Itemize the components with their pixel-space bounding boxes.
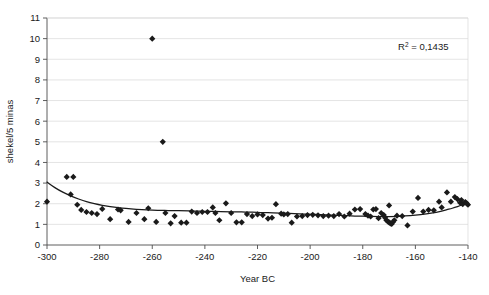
x-tick-label--160: -160 xyxy=(406,251,425,262)
x-tick-label--220: -220 xyxy=(248,251,267,262)
y-tick-label-4: 4 xyxy=(35,157,40,168)
x-tick-label--200: -200 xyxy=(301,251,320,262)
y-tick-label-0: 0 xyxy=(35,239,40,250)
y-axis-title: shekel/5 minas xyxy=(4,100,15,164)
x-tick-label--300: -300 xyxy=(37,251,56,262)
x-tick-label--240: -240 xyxy=(195,251,214,262)
scatter-chart: 01234567891011 -300-280-260-240-220-200-… xyxy=(0,0,489,295)
y-tick-label-11: 11 xyxy=(30,12,40,23)
chart-container: 01234567891011 -300-280-260-240-220-200-… xyxy=(0,0,489,295)
y-tick-label-8: 8 xyxy=(35,74,40,85)
x-tick-label--140: -140 xyxy=(458,251,477,262)
y-tick-label-3: 3 xyxy=(35,177,40,188)
y-tick-label-5: 5 xyxy=(35,136,40,147)
y-tick-label-6: 6 xyxy=(35,116,40,127)
x-axis-title: Year BC xyxy=(240,273,275,284)
x-tick-label--280: -280 xyxy=(90,251,109,262)
y-tick-label-1: 1 xyxy=(35,219,40,230)
x-tick-label--260: -260 xyxy=(143,251,162,262)
y-tick-label-10: 10 xyxy=(29,33,40,44)
y-tick-label-9: 9 xyxy=(35,54,40,65)
y-tick-label-7: 7 xyxy=(35,95,40,106)
x-tick-label--180: -180 xyxy=(353,251,372,262)
x-axis-tick-labels: -300-280-260-240-220-200-180-160-140 xyxy=(37,251,477,262)
y-tick-label-2: 2 xyxy=(35,198,40,209)
